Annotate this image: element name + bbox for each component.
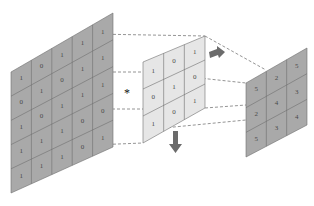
convolution-operator: * [124,86,130,100]
output-grid-cell: 3 [295,88,299,96]
input-grid-cell: 1 [60,127,64,135]
input-grid-cell: 1 [19,147,23,155]
kernel-grid-cell: 0 [172,57,176,65]
output-grid-cell: 5 [295,62,299,70]
kernel-grid-cell: 1 [152,67,156,75]
slide-down-arrow [169,131,182,153]
output-grid-cell: 3 [275,124,279,132]
output-grid-cell: 2 [275,74,279,82]
input-grid-cell: 0 [60,76,64,84]
input-grid-cell: 1 [101,28,105,36]
output-grid-cell: 5 [254,85,258,93]
input-grid: 1011101011101111110011101 [11,13,113,193]
kernel-grid-cell: 1 [193,48,197,56]
input-grid-cell: 1 [60,102,64,110]
input-grid-cell: 1 [81,91,85,99]
input-grid-cell: 0 [40,62,44,70]
input-grid-cell: 1 [19,172,23,180]
input-grid-cell: 0 [101,107,105,115]
input-grid-cell: 0 [40,112,44,120]
input-grid-cell: 1 [40,162,44,170]
kernel-grid-cell: 0 [152,93,156,101]
input-grid-cell: 1 [60,153,64,161]
kernel-grid-cell: 1 [193,97,197,105]
input-grid-cell: 1 [81,65,85,73]
output-grid-cell: 4 [275,99,279,107]
output-grid-cell: 2 [254,110,258,118]
input-grid-cell: 0 [81,143,85,151]
input-grid-cell: 1 [101,134,105,142]
input-grid-cell: 1 [60,51,64,59]
input-grid-cell: 0 [19,98,23,106]
input-grid-cell: 1 [101,81,105,89]
kernel-grid-cell: 1 [152,120,156,128]
kernel-grid-cell: 0 [172,108,176,116]
kernel-grid-cell: 0 [193,73,197,81]
convolution-diagram: 1011101011101111110011101 * 101010101 52… [0,0,314,206]
input-grid-cell: 1 [81,39,85,47]
input-grid-cell: 1 [19,123,23,131]
output-grid-cell: 5 [254,135,258,143]
input-grid-cell: 0 [81,117,85,125]
output-grid-cell: 4 [295,113,299,121]
input-grid-cell: 1 [40,87,44,95]
input-grid-cell: 1 [101,54,105,62]
slide-right-arrow [209,46,225,58]
kernel-grid-cell: 1 [172,83,176,91]
input-grid-cell: 1 [19,74,23,82]
input-grid-cell: 1 [40,137,44,145]
